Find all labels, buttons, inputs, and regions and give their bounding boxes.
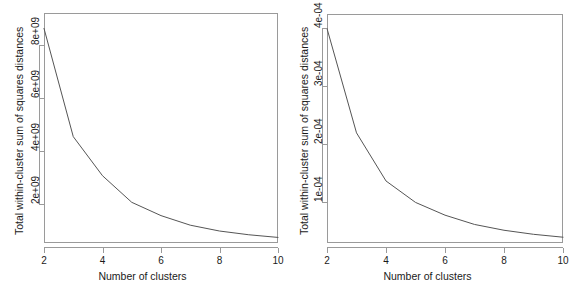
x-tick-mark [278,248,279,253]
figure-canvas: 2e+094e+096e+098e+09 246810 Number of cl… [0,0,570,293]
x-tick-label: 10 [272,256,283,266]
elbow-plot-right: 1e-042e-043e-044e-04 246810 Number of cl… [285,0,570,293]
x-axis-title-right: Number of clusters [285,271,570,282]
x-tick-label: 2 [324,256,330,266]
x-tick-mark [220,248,221,253]
x-tick-mark [103,248,104,253]
y-tick-mark [39,204,44,205]
y-tick-mark [322,28,327,29]
y-tick-mark [322,86,327,87]
x-tick-mark [445,248,446,253]
y-tick-mark [322,144,327,145]
elbow-curve-path [44,28,278,237]
x-tick-mark [386,248,387,253]
x-tick-label: 6 [442,256,448,266]
x-tick-label: 8 [217,256,223,266]
y-tick-mark [39,45,44,46]
y-axis-title-left: Total within-cluster sum of squares dist… [14,27,25,235]
x-tick-label: 2 [41,256,47,266]
y-tick-mark [322,202,327,203]
elbow-plot-left: 2e+094e+096e+098e+09 246810 Number of cl… [0,0,285,293]
x-tick-mark [161,248,162,253]
y-axis-title-right: Total within-cluster sum of squares dist… [299,27,310,235]
x-axis-title-left: Number of clusters [0,271,285,282]
x-tick-label: 4 [100,256,106,266]
x-tick-label: 4 [383,256,389,266]
x-tick-mark [327,248,328,253]
x-tick-mark [44,248,45,253]
x-tick-label: 8 [501,256,507,266]
x-tick-mark [504,248,505,253]
x-tick-label: 6 [158,256,164,266]
y-tick-mark [39,151,44,152]
x-tick-mark [563,248,564,253]
x-tick-label: 10 [557,256,568,266]
y-tick-mark [39,98,44,99]
elbow-curve-path [327,28,563,237]
